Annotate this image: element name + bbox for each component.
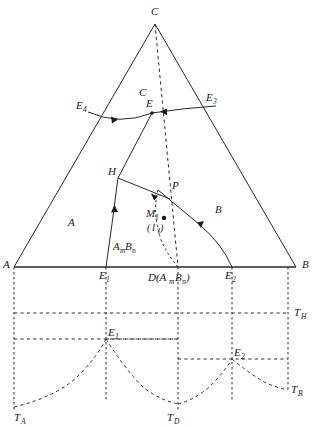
label-e4-sub: 4 bbox=[83, 105, 87, 114]
label-ambn-n: n bbox=[132, 246, 136, 255]
label-h: H bbox=[107, 165, 117, 177]
label-region-a: A bbox=[67, 216, 75, 228]
label-e1-baseline: E 1 bbox=[98, 269, 110, 284]
label-e-eutectic: E bbox=[145, 97, 153, 109]
horizontal-temperature-lines bbox=[14, 313, 288, 359]
curve-TD-to-E2 bbox=[178, 359, 232, 404]
label-vertex-a: A bbox=[2, 258, 10, 270]
label-ambn-a: A bbox=[112, 240, 120, 252]
label-tb: T B bbox=[291, 383, 303, 398]
label-ambn-b: B bbox=[125, 240, 132, 252]
label-e4: E 4 bbox=[75, 99, 87, 114]
label-e4-base: E bbox=[75, 99, 83, 111]
label-tb-sub: B bbox=[298, 389, 303, 398]
curve-E1-to-TD bbox=[106, 339, 178, 404]
label-td-sub: D bbox=[173, 417, 180, 426]
label-l1-close: ) bbox=[159, 222, 164, 234]
label-e2-base-sub: 2 bbox=[232, 275, 236, 284]
label-d-prefix: D(A bbox=[147, 271, 167, 284]
liquidus-curves bbox=[14, 339, 288, 407]
label-m1: M 1 bbox=[145, 207, 159, 222]
label-th-sub: H bbox=[300, 312, 307, 321]
label-ta-base: T bbox=[14, 411, 21, 423]
label-ta-sub: A bbox=[20, 417, 26, 426]
label-e1-base-letter: E bbox=[98, 269, 106, 281]
label-l1-base: l bbox=[152, 221, 155, 233]
label-l1-open: ( bbox=[147, 222, 151, 234]
curve-E2-to-TB bbox=[232, 359, 288, 390]
label-d-compound: D(A m B n ) bbox=[147, 271, 190, 286]
curve-e3-to-e bbox=[152, 106, 216, 115]
label-d-suffix: ) bbox=[185, 271, 190, 284]
label-ambn: A m B n bbox=[112, 240, 136, 255]
label-e2-proj-letter: E bbox=[233, 346, 241, 358]
label-region-b: B bbox=[215, 203, 222, 215]
label-vertex-b: B bbox=[302, 258, 309, 270]
label-e1-proj-letter: E bbox=[107, 326, 115, 338]
phase-diagram-figure: C C E 4 C E E 3 H P M 1 ( l 1 ) A B A m … bbox=[0, 0, 321, 427]
dot-E bbox=[150, 111, 154, 115]
label-e1-proj-sub: 1 bbox=[115, 332, 119, 341]
label-m1-sub: 1 bbox=[155, 213, 159, 222]
label-l1: ( l 1 ) bbox=[147, 221, 164, 236]
label-e2-baseline: E 2 bbox=[224, 269, 236, 284]
label-vertex-c: C bbox=[151, 5, 159, 17]
curve-e2-to-p bbox=[158, 190, 232, 267]
label-e3-base: E bbox=[205, 91, 213, 103]
label-th-base: T bbox=[294, 306, 301, 318]
label-td: T D bbox=[167, 411, 180, 426]
label-th: T H bbox=[294, 306, 307, 321]
label-e2-proj-sub: 2 bbox=[241, 352, 245, 361]
node-dots bbox=[150, 111, 166, 220]
label-td-base: T bbox=[167, 411, 174, 423]
label-p: P bbox=[171, 179, 179, 191]
label-d-mid: B bbox=[175, 271, 182, 283]
dot-M1 bbox=[162, 216, 166, 220]
label-e2-projected: E 2 bbox=[233, 346, 245, 361]
curve-TA-to-E1 bbox=[14, 339, 106, 407]
label-tb-base: T bbox=[291, 383, 298, 395]
segment-h-to-p bbox=[118, 178, 170, 201]
label-e1-base-sub: 1 bbox=[106, 275, 110, 284]
label-e2-base-letter: E bbox=[224, 269, 232, 281]
label-e3-sub: 3 bbox=[212, 97, 217, 106]
label-e3: E 3 bbox=[205, 91, 217, 106]
curve-e4-to-e bbox=[88, 112, 152, 124]
label-ta: T A bbox=[14, 411, 26, 426]
